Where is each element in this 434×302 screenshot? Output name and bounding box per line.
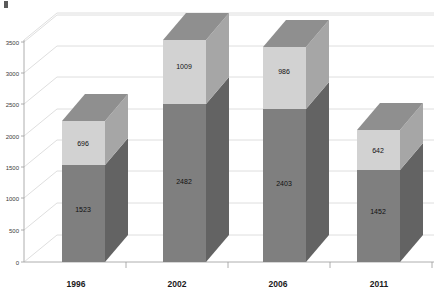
x-tick-label-2002: 2002 <box>168 279 187 289</box>
bar-2002-lower-value-label: 2482 <box>176 178 192 185</box>
bar-2011-upper-value-label: 642 <box>372 147 384 154</box>
bar-2011-lower-value-label: 1452 <box>370 208 386 215</box>
bar-1996-lower-value-label: 1523 <box>75 206 91 213</box>
bar-1996[interactable]: 696 1523 <box>62 94 128 262</box>
y-tick-label-3500: 3500 <box>6 40 20 46</box>
bar-2006-upper-front[interactable] <box>263 47 306 109</box>
bar-1996-upper-value-label: 696 <box>77 140 89 147</box>
bar-2006-lower-side[interactable] <box>306 82 329 262</box>
y-axis: 3500 3000 2500 2000 1500 1000 500 0 <box>6 40 24 266</box>
bar-1996-lower-front[interactable] <box>62 165 105 262</box>
chart-container: 3500 3000 2500 2000 1500 1000 500 0 696 … <box>0 0 434 302</box>
x-tick-label-2006: 2006 <box>269 279 288 289</box>
bar-2011[interactable]: 642 1452 <box>357 103 423 262</box>
y-tick-label-1000: 1000 <box>6 196 20 202</box>
y-tick-label-500: 500 <box>9 228 20 234</box>
bar-2006-lower-value-label: 2403 <box>276 180 292 187</box>
bar-2002[interactable]: 1009 2482 <box>163 13 229 262</box>
y-tick-label-2500: 2500 <box>6 102 20 108</box>
bar-2006[interactable]: 986 2403 <box>263 20 329 262</box>
y-tick-label-0: 0 <box>16 260 20 266</box>
y-tick-label-2000: 2000 <box>6 134 20 140</box>
y-tick-label-1500: 1500 <box>6 165 20 171</box>
x-tick-label-2011: 2011 <box>370 279 389 289</box>
y-tick-label-3000: 3000 <box>6 71 20 77</box>
bar-2011-lower-front[interactable] <box>357 170 400 262</box>
bar-2002-upper-value-label: 1009 <box>176 63 192 70</box>
stacked-column-chart-3d: 3500 3000 2500 2000 1500 1000 500 0 696 … <box>0 0 434 302</box>
x-axis: 1996 2002 2006 2011 <box>67 262 432 289</box>
bar-2006-upper-value-label: 986 <box>278 68 290 75</box>
bar-2002-lower-side[interactable] <box>206 77 229 262</box>
bar-2002-upper-front[interactable] <box>163 40 206 104</box>
page-artifact-mark <box>4 1 8 8</box>
x-tick-label-1996: 1996 <box>67 279 86 289</box>
